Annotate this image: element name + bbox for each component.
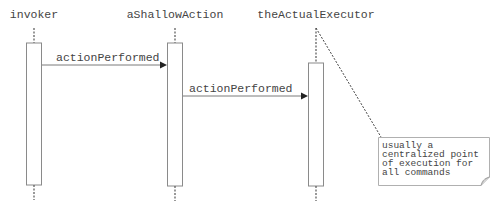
sequence-diagram: invoker aShallowAction theActualExecutor… [0, 0, 492, 210]
participant-label-ashallowaction: aShallowAction [127, 8, 224, 21]
note-connector [316, 28, 381, 137]
participant-label-theactualexecutor: theActualExecutor [257, 8, 374, 21]
participant-label-invoker: invoker [10, 8, 58, 21]
participant-ashallowaction: aShallowAction [127, 8, 224, 201]
message-label-2: actionPerformed [189, 82, 293, 95]
arrowhead-icon [301, 93, 308, 100]
note: usually a centralized point of execution… [379, 138, 490, 186]
message-2: actionPerformed [183, 82, 308, 100]
arrowhead-icon [160, 62, 167, 69]
message-label-1: actionPerformed [56, 51, 160, 64]
participant-theactualexecutor: theActualExecutor [257, 8, 374, 201]
activation-box-theactualexecutor [309, 63, 324, 186]
participant-invoker: invoker [10, 8, 58, 200]
message-1: actionPerformed [42, 51, 167, 69]
activation-box-ashallowaction [168, 43, 183, 186]
note-line-4: all commands [382, 167, 450, 178]
activation-box-invoker [27, 43, 42, 185]
